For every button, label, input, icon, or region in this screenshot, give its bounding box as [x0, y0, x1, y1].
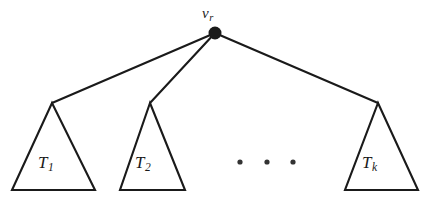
subtree-T1-label-subscript: 1 [47, 161, 53, 173]
root-vertex-label: vr [202, 5, 213, 23]
root-vertex-label-subscript: r [209, 12, 214, 23]
tree-diagram-canvas [0, 0, 428, 206]
ellipsis-dot-1 [237, 159, 242, 164]
ellipsis-dot-3 [290, 159, 295, 164]
subtree-Tk-label: Tk [362, 153, 377, 173]
subtree-T1-label: T1 [38, 153, 54, 173]
ellipsis-dot-2 [264, 159, 269, 164]
tree-figure: vr T1 T2 Tk [0, 0, 428, 206]
root-vertex-dot [209, 27, 222, 40]
root-vertex-label-base: v [202, 5, 209, 21]
subtree-T2-label-subscript: 2 [144, 161, 150, 173]
subtree-Tk-label-subscript: k [371, 161, 377, 173]
subtree-T2-label: T2 [135, 153, 151, 173]
